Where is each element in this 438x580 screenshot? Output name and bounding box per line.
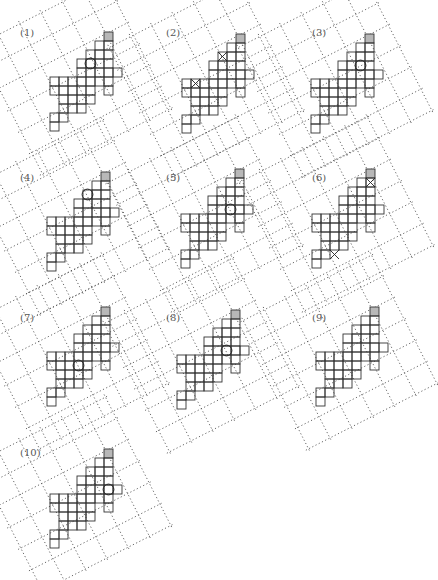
dashed-grid-line bbox=[117, 2, 251, 70]
cell bbox=[77, 485, 86, 494]
cell bbox=[101, 343, 110, 352]
cell bbox=[95, 494, 104, 503]
cell bbox=[217, 232, 226, 241]
cell bbox=[320, 79, 329, 88]
cell bbox=[181, 259, 190, 268]
cell bbox=[348, 214, 357, 223]
cell bbox=[95, 467, 104, 476]
cell bbox=[86, 467, 95, 476]
cell bbox=[338, 106, 347, 115]
cell bbox=[86, 485, 95, 494]
dashed-grid-line bbox=[259, 169, 327, 303]
cell bbox=[365, 43, 374, 52]
cell bbox=[101, 226, 110, 235]
cell bbox=[321, 223, 330, 232]
cell bbox=[50, 77, 59, 86]
cell bbox=[59, 113, 68, 122]
cell bbox=[330, 214, 339, 223]
cell bbox=[186, 364, 195, 373]
cell bbox=[104, 86, 113, 95]
cell bbox=[83, 226, 92, 235]
cell bbox=[104, 485, 113, 494]
shaded-cell bbox=[370, 307, 379, 316]
cell bbox=[101, 325, 110, 334]
cell bbox=[77, 476, 86, 485]
dashed-grid-line bbox=[145, 342, 279, 410]
cell bbox=[352, 352, 361, 361]
dashed-grid-line bbox=[18, 481, 152, 549]
cell bbox=[361, 352, 370, 361]
cell bbox=[101, 190, 110, 199]
cell bbox=[59, 512, 68, 521]
cell bbox=[352, 343, 361, 352]
cell bbox=[343, 343, 352, 352]
dashed-grid-line bbox=[0, 119, 105, 187]
cell bbox=[95, 458, 104, 467]
panel-label: (7) bbox=[20, 312, 34, 323]
panel-label: (10) bbox=[20, 447, 41, 458]
cell bbox=[83, 325, 92, 334]
cell bbox=[217, 187, 226, 196]
cell bbox=[56, 217, 65, 226]
cell bbox=[86, 77, 95, 86]
cell bbox=[113, 68, 122, 77]
cell bbox=[231, 337, 240, 346]
cell bbox=[361, 325, 370, 334]
cell bbox=[95, 476, 104, 485]
cell bbox=[365, 70, 374, 79]
cell bbox=[357, 214, 366, 223]
cell bbox=[47, 226, 56, 235]
cell bbox=[74, 379, 83, 388]
cell bbox=[347, 97, 356, 106]
cell bbox=[83, 235, 92, 244]
cell bbox=[240, 346, 249, 355]
dashed-grid-line bbox=[370, 252, 438, 386]
cell bbox=[236, 88, 245, 97]
cell bbox=[329, 106, 338, 115]
cell bbox=[195, 364, 204, 373]
cell bbox=[217, 223, 226, 232]
cell bbox=[199, 223, 208, 232]
cell bbox=[104, 503, 113, 512]
cell bbox=[366, 223, 375, 232]
cell bbox=[329, 88, 338, 97]
cell bbox=[320, 115, 329, 124]
cell bbox=[50, 494, 59, 503]
cell bbox=[325, 352, 334, 361]
cell bbox=[83, 352, 92, 361]
cell bbox=[226, 178, 235, 187]
dashed-grid-line bbox=[15, 339, 149, 407]
cell bbox=[74, 226, 83, 235]
cell bbox=[357, 178, 366, 187]
shaded-cell bbox=[101, 172, 110, 181]
panel-7: (7) bbox=[0, 252, 171, 451]
panel-6: (6) bbox=[236, 114, 435, 313]
cell bbox=[92, 316, 101, 325]
cell bbox=[361, 316, 370, 325]
dashed-grid-line bbox=[215, 0, 283, 124]
cell bbox=[334, 379, 343, 388]
cell bbox=[104, 467, 113, 476]
cell bbox=[74, 244, 83, 253]
cell bbox=[348, 223, 357, 232]
cell bbox=[186, 391, 195, 400]
cell bbox=[236, 43, 245, 52]
cell bbox=[92, 325, 101, 334]
cell bbox=[361, 334, 370, 343]
dashed-grid-line bbox=[103, 321, 171, 455]
cell bbox=[47, 217, 56, 226]
cell bbox=[56, 370, 65, 379]
cell bbox=[77, 104, 86, 113]
cell bbox=[365, 52, 374, 61]
cell bbox=[218, 70, 227, 79]
cell bbox=[235, 178, 244, 187]
cell bbox=[190, 214, 199, 223]
cell bbox=[366, 205, 375, 214]
circle-marker-icon bbox=[355, 60, 366, 71]
cell bbox=[222, 328, 231, 337]
cell bbox=[56, 352, 65, 361]
cell bbox=[50, 539, 59, 548]
dashed-grid-line bbox=[0, 318, 41, 452]
cell bbox=[191, 97, 200, 106]
dashed-grid-line bbox=[263, 307, 331, 441]
